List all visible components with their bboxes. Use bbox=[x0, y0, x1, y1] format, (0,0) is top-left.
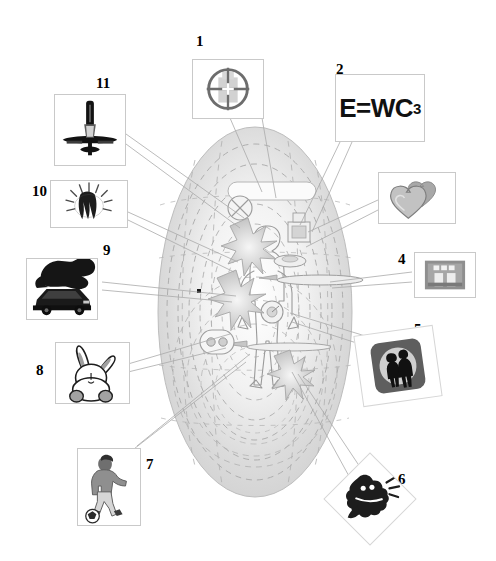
formula-text: E=WC3 bbox=[336, 75, 424, 141]
callout-box-10[interactable] bbox=[50, 180, 128, 228]
crosshair-icon bbox=[193, 60, 263, 118]
callout-box-2[interactable]: E=WC3 bbox=[335, 74, 425, 142]
soccer-player-icon bbox=[78, 449, 140, 525]
callout-number-9: 9 bbox=[103, 243, 111, 258]
callout-box-4[interactable] bbox=[414, 252, 476, 298]
dial-icon bbox=[261, 301, 283, 323]
dish-icon bbox=[274, 255, 306, 267]
callout-number-8: 8 bbox=[36, 363, 44, 378]
callout-number-4: 4 bbox=[398, 252, 406, 267]
callout-box-3[interactable] bbox=[378, 172, 456, 224]
callout-number-10: 10 bbox=[32, 184, 47, 199]
people-badge-icon bbox=[355, 326, 442, 406]
callout-box-9[interactable] bbox=[26, 258, 98, 320]
burst-icon bbox=[51, 181, 127, 227]
photo-icon bbox=[415, 253, 475, 297]
formula-main: E=WC bbox=[339, 93, 413, 124]
impact-figure-icon bbox=[338, 467, 402, 531]
callout-box-5[interactable] bbox=[353, 325, 442, 407]
airplane-icon bbox=[55, 95, 125, 165]
rabbit-icon bbox=[56, 343, 129, 403]
callout-6-inner bbox=[338, 467, 402, 531]
callout-number-1: 1 bbox=[196, 34, 204, 49]
formula-sub: 3 bbox=[413, 100, 421, 117]
no-entry-icon bbox=[228, 196, 252, 220]
callout-number-11: 11 bbox=[96, 76, 110, 91]
callout-box-1[interactable] bbox=[192, 59, 264, 119]
diagram-canvas: 1 2 E=WC3 3 4 bbox=[0, 0, 496, 561]
callout-box-7[interactable] bbox=[77, 448, 141, 526]
hearts-icon bbox=[379, 173, 455, 223]
burning-car-icon bbox=[27, 259, 97, 319]
callout-box-11[interactable] bbox=[54, 94, 126, 166]
callout-number-7: 7 bbox=[146, 457, 154, 472]
callout-box-8[interactable] bbox=[55, 342, 130, 404]
